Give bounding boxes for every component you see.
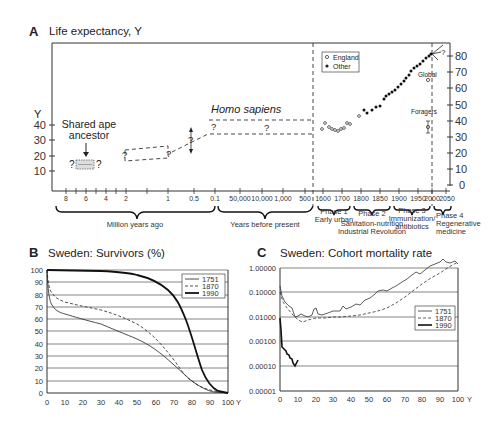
svg-text:1800: 1800 (353, 195, 369, 202)
svg-text:Million years ago: Million years ago (107, 220, 163, 229)
svg-text:0.1: 0.1 (210, 195, 220, 202)
svg-text:0.01000: 0.01000 (249, 313, 276, 322)
svg-text:80: 80 (418, 395, 426, 404)
panel-c-legend: 1751 1870 1990 (415, 306, 455, 330)
svg-text:70: 70 (170, 398, 178, 407)
panel-a-title: Life expectancy, Y (49, 25, 142, 37)
svg-text:1.00000: 1.00000 (249, 264, 276, 273)
svg-text:8: 8 (64, 195, 68, 202)
panel-a-legend: England Other (322, 52, 359, 72)
svg-text:?: ? (122, 149, 127, 160)
svg-text:0.00001: 0.00001 (249, 387, 276, 396)
svg-text:Y: Y (236, 398, 241, 407)
svg-text:?: ? (264, 122, 269, 133)
future-projection-arrows: ? (432, 45, 446, 60)
panel-b-letter: B (29, 245, 38, 260)
svg-text:10,000: 10,000 (251, 195, 273, 202)
global-label: Global (418, 71, 437, 78)
panel-c-yticks: 1.00000 0.10000 0.01000 0.00100 0.00010 … (249, 264, 276, 396)
svg-text:1,000: 1,000 (274, 195, 292, 202)
svg-text:2050: 2050 (439, 195, 455, 202)
panel-a-xtick-labels: 8 6 4 2 1 0.5 0.1 50,000 10,000 1,000 50… (64, 195, 455, 202)
svg-text:50: 50 (35, 327, 43, 336)
svg-text:1990: 1990 (435, 321, 452, 330)
svg-text:?: ? (188, 134, 193, 145)
svg-text:Other: Other (333, 63, 351, 70)
panel-a: A Life expectancy, Y Y 40 30 20 10 (29, 24, 481, 236)
svg-text:40: 40 (455, 115, 467, 127)
svg-text:1600: 1600 (315, 195, 331, 202)
svg-text:70: 70 (35, 303, 43, 312)
shared-ape-ancestor-annotation: Shared ape ancestor ? ? (62, 118, 116, 170)
svg-text:Homo sapiens: Homo sapiens (211, 103, 282, 115)
svg-text:50,000: 50,000 (229, 195, 251, 202)
svg-text:70: 70 (455, 66, 467, 78)
svg-text:0: 0 (459, 179, 465, 191)
svg-text:60: 60 (35, 315, 43, 324)
svg-text:80: 80 (188, 398, 196, 407)
homo-sapiens-estimate: Homo sapiens ? ? (209, 103, 313, 134)
svg-text:England: England (333, 54, 359, 62)
panel-b-xticks: 0 10 20 30 40 50 60 70 80 90 100 Y (45, 398, 241, 407)
svg-text:40: 40 (35, 340, 43, 349)
svg-text:20: 20 (34, 150, 46, 162)
svg-text:?: ? (441, 48, 446, 57)
svg-text:?: ? (211, 121, 216, 132)
svg-text:0.00100: 0.00100 (249, 337, 276, 346)
panel-b-legend: 1751 1870 1990 (182, 274, 225, 298)
svg-text:60: 60 (383, 395, 391, 404)
svg-text:Phase 2: Phase 2 (358, 209, 386, 218)
svg-text:80: 80 (35, 291, 43, 300)
svg-text:100: 100 (222, 398, 235, 407)
svg-text:antibiotics: antibiotics (395, 222, 429, 231)
svg-text:Years before present: Years before present (230, 220, 300, 229)
svg-text:0.10000: 0.10000 (249, 288, 276, 297)
svg-text:30: 30 (329, 395, 337, 404)
other-points (363, 53, 433, 115)
svg-text:?: ? (69, 159, 75, 170)
svg-text:10: 10 (294, 395, 302, 404)
england-points (321, 78, 430, 132)
early-hominin-estimate: ? ? ? (122, 127, 208, 161)
svg-text:0.5: 0.5 (189, 195, 199, 202)
svg-text:10: 10 (34, 165, 46, 177)
svg-text:20: 20 (79, 398, 87, 407)
svg-text:?: ? (96, 159, 102, 170)
svg-text:10: 10 (35, 377, 43, 386)
svg-text:50: 50 (133, 398, 141, 407)
panel-c-title: Sweden: Cohort mortality rate (280, 247, 432, 259)
svg-text:10: 10 (455, 163, 467, 175)
svg-text:40: 40 (115, 398, 123, 407)
svg-text:90: 90 (436, 395, 444, 404)
mortality-1990-line (280, 318, 298, 366)
svg-text:70: 70 (401, 395, 409, 404)
svg-text:30: 30 (35, 352, 43, 361)
foragers-label: Foragers (411, 108, 438, 116)
svg-text:10: 10 (61, 398, 69, 407)
svg-text:30: 30 (97, 398, 105, 407)
svg-text:6: 6 (84, 195, 88, 202)
svg-text:40: 40 (34, 119, 46, 131)
panel-c: C Sweden: Cohort mortality rate 1.00000 … (249, 245, 472, 404)
svg-text:20: 20 (35, 364, 43, 373)
panel-b: B Sweden: Survivors (%) 100 90 80 70 60 … (29, 245, 241, 407)
svg-text:2: 2 (124, 195, 128, 202)
panel-b-yticks: 100 90 80 70 60 50 40 30 20 10 0 (30, 266, 43, 398)
svg-text:1990: 1990 (202, 289, 219, 298)
panel-c-letter: C (257, 245, 267, 260)
svg-text:40: 40 (347, 395, 355, 404)
svg-text:50: 50 (455, 99, 467, 111)
svg-text:0: 0 (45, 398, 49, 407)
svg-text:4: 4 (104, 195, 108, 202)
panel-b-title: Sweden: Survivors (%) (48, 247, 165, 259)
svg-text:30: 30 (455, 131, 467, 143)
svg-text:Y: Y (467, 395, 472, 404)
svg-text:1850: 1850 (372, 195, 388, 202)
svg-text:1900: 1900 (391, 195, 407, 202)
svg-text:0: 0 (278, 395, 282, 404)
svg-text:60: 60 (455, 82, 467, 94)
svg-text:100: 100 (452, 395, 465, 404)
svg-text:0.00010: 0.00010 (249, 362, 276, 371)
svg-text:0: 0 (39, 389, 43, 398)
svg-text:?: ? (166, 148, 171, 159)
